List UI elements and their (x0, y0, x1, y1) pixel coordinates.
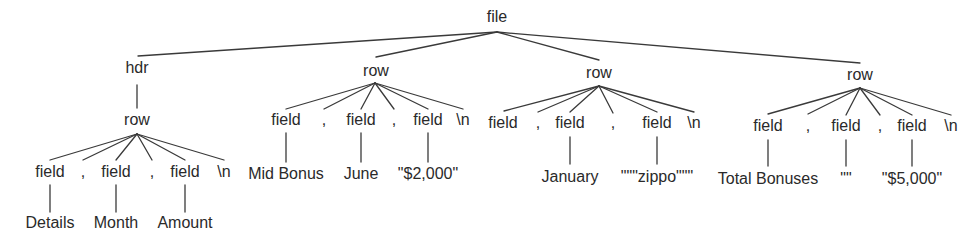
node-hdr-field-3: field (170, 163, 199, 180)
edges-hdr (50, 85, 224, 212)
node-row2-comma-1: , (536, 114, 540, 131)
leaf-hdr-details: Details (26, 214, 75, 231)
node-row2-newline: \n (687, 114, 700, 131)
edges-root (138, 32, 860, 63)
leaf-hdr-amount: Amount (157, 214, 213, 231)
leaf-row2-zippo: """zippo""" (621, 168, 693, 185)
node-hdr: hdr (125, 59, 149, 76)
leaf-row3-amount: "$5,000" (882, 170, 942, 187)
node-row-1: row (363, 62, 389, 79)
leaf-row3-total-bonuses: Total Bonuses (718, 170, 819, 187)
node-row3-comma-1: , (806, 117, 810, 134)
leaf-row2-january: January (542, 168, 599, 185)
node-hdr-field-2: field (101, 163, 130, 180)
node-row3-comma-2: , (878, 117, 882, 134)
node-row2-field-1: field (488, 114, 517, 131)
leaf-hdr-month: Month (94, 214, 138, 231)
node-row3-newline: \n (944, 117, 957, 134)
node-row-2: row (586, 64, 612, 81)
leaf-row3-empty: "" (840, 170, 851, 187)
node-row3-field-2: field (831, 117, 860, 134)
leaf-row1-amount: "$2,000" (398, 165, 458, 182)
node-hdr-field-1: field (35, 163, 64, 180)
node-row1-field-3: field (413, 111, 442, 128)
node-row1-field-1: field (271, 111, 300, 128)
node-row1-field-2: field (346, 111, 375, 128)
node-hdr-comma-1: , (81, 163, 85, 180)
node-row-3: row (847, 66, 873, 83)
node-row2-field-3: field (642, 114, 671, 131)
node-row1-newline: \n (456, 111, 469, 128)
node-hdr-row: row (124, 111, 150, 128)
node-hdr-newline: \n (217, 163, 230, 180)
node-row2-field-2: field (555, 114, 584, 131)
parse-tree-diagram: file hdr row field , field , field \n De… (0, 0, 976, 245)
node-row2-comma-2: , (611, 114, 615, 131)
leaf-row1-mid-bonus: Mid Bonus (248, 165, 324, 182)
node-row3-field-1: field (753, 117, 782, 134)
node-row1-comma-2: , (392, 111, 396, 128)
node-row1-comma-1: , (322, 111, 326, 128)
node-file: file (487, 8, 508, 25)
node-hdr-comma-2: , (150, 163, 154, 180)
leaf-row1-june: June (344, 165, 379, 182)
node-row3-field-3: field (897, 117, 926, 134)
